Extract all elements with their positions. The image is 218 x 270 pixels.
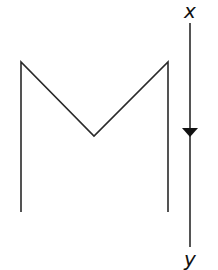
m-shape-outline [21, 62, 168, 212]
diagram-canvas: x y [0, 0, 218, 270]
label-top-x: x [183, 0, 196, 23]
arrowhead-down-icon [182, 128, 198, 137]
label-bottom-y: y [183, 247, 197, 270]
